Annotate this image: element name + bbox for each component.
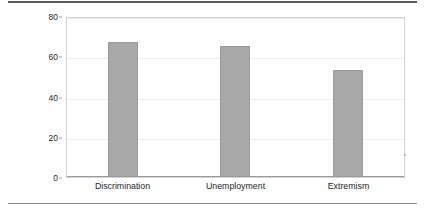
y-tick-label-60: 60 xyxy=(49,53,58,62)
bottom-rule-divider xyxy=(8,203,417,204)
y-tick-mark-0 xyxy=(59,178,62,179)
x-axis-baseline xyxy=(67,176,404,177)
y-tick-mark-80 xyxy=(59,17,62,18)
y-axis-tick-labels: 020406080 xyxy=(36,17,62,178)
y-tick-label-0: 0 xyxy=(53,174,58,183)
bar-slot xyxy=(67,18,179,177)
y-tick-label-40: 40 xyxy=(49,93,58,102)
figure-container: Response: "somewhat" or "very" worried (… xyxy=(0,0,425,216)
top-rule-divider xyxy=(8,1,417,3)
bars-group xyxy=(67,18,404,177)
y-tick-mark-60 xyxy=(59,57,62,58)
y-tick-label-80: 80 xyxy=(49,13,58,22)
bar-slot xyxy=(179,18,291,177)
stray-speck-mark xyxy=(404,154,406,156)
plot-area xyxy=(66,17,405,178)
bar-unemployment[interactable] xyxy=(220,46,250,177)
y-tick-mark-40 xyxy=(59,97,62,98)
bar-discrimination[interactable] xyxy=(108,42,138,177)
x-axis-tick-labels: DiscriminationUnemploymentExtremism xyxy=(66,182,405,196)
x-tick-label-discrimination: Discrimination xyxy=(95,182,150,192)
x-tick-label-extremism: Extremism xyxy=(328,182,370,192)
bar-extremism[interactable] xyxy=(333,70,363,177)
x-tick-label-unemployment: Unemployment xyxy=(206,182,265,192)
y-tick-mark-20 xyxy=(59,137,62,138)
bar-slot xyxy=(292,18,404,177)
y-tick-label-20: 20 xyxy=(49,134,58,143)
